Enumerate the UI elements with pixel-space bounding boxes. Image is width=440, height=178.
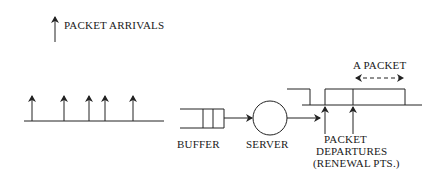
departures-label-line-1: PACKET [324, 133, 367, 145]
departures-label-line-2: DEPARTURES [316, 145, 387, 157]
departures-label: PACKET DEPARTURES (RENEWAL PTS.) [313, 133, 400, 170]
departures-label-line-3: (RENEWAL PTS.) [313, 157, 400, 170]
buffer: BUFFER [177, 109, 224, 150]
packet-boxes [325, 89, 405, 105]
legend-label: PACKET ARRIVALS [64, 19, 164, 31]
buffer-label: BUFFER [177, 138, 220, 150]
server: SERVER [246, 101, 289, 150]
departure-arrows [325, 107, 353, 134]
packet-queue-diagram: PACKET ARRIVALS BUFFER SERVER [0, 0, 440, 178]
legend: PACKET ARRIVALS [55, 17, 164, 42]
server-label: SERVER [246, 138, 289, 150]
arrivals-timeline [24, 96, 164, 121]
departures-timeline [287, 89, 422, 134]
packet-label: A PACKET [353, 59, 407, 71]
packet-span-annotation: A PACKET [353, 59, 407, 78]
arrival-arrows [32, 96, 133, 121]
